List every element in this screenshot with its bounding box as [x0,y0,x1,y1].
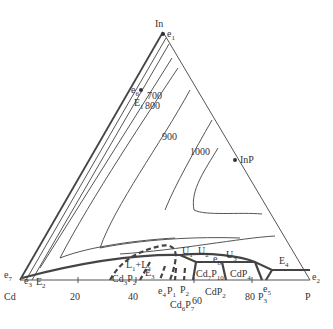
label-L1-L2: L1+L2 [126,259,151,273]
compound-inp-label: InP [240,154,254,165]
vertex-cd-label: Cd [4,291,16,302]
label-e1: e1 [167,28,175,42]
isotherm-1000-label: 1000 [190,146,210,157]
label-E1: E1 [134,97,144,111]
vertex-in-label: In [155,18,163,29]
label-P1: P1 [167,285,177,299]
label-e4: e4 [158,285,166,299]
inp-point [233,158,237,162]
isotherm-800-label: 800 [145,100,160,111]
label-E2: E2 [36,276,46,290]
vertex-p-label: P [305,291,311,302]
label-U2: U2 [198,245,209,259]
e6-point [139,88,143,92]
label-E4: E4 [279,255,289,269]
label-e7: e7 [4,269,12,283]
label-e3: e3 [24,275,32,289]
tick-80: 80 [245,291,255,302]
label-Cd3P2: Cd3P2 [112,273,137,287]
ternary-phase-diagram: In Cd P InP 20 40 60 80 700 800 900 1000… [0,0,333,329]
tick-20: 20 [70,291,80,302]
label-P2: P2 [180,284,190,298]
tick-40: 40 [128,291,138,302]
label-e2: e2 [312,271,320,285]
monovariant-curves [22,254,310,280]
isotherm-900-label: 900 [162,131,177,142]
label-CdP2: CdP2 [205,286,226,300]
e1-point [161,32,165,36]
label-e5: e5 [263,283,271,297]
